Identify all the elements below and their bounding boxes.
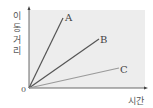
x-axis-label: 시간	[128, 96, 144, 106]
distance-time-chart: A B C 0 이 동 거 리 시간	[0, 0, 153, 108]
x-axis-arrow-icon	[144, 87, 148, 90]
ylabel-char-3: 거	[13, 35, 21, 45]
y-axis-arrow-icon	[28, 6, 31, 10]
origin-label: 0	[21, 85, 26, 94]
label-c: C	[120, 64, 128, 75]
ylabel-char-1: 이	[13, 11, 21, 21]
label-b: B	[100, 34, 107, 45]
ylabel-char-2: 동	[13, 23, 21, 33]
ylabel-char-4: 리	[13, 46, 21, 56]
label-a: A	[64, 12, 73, 23]
